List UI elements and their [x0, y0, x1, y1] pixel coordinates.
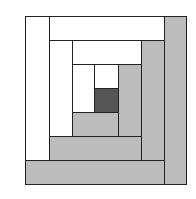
inner-bottom-gray-strip — [72, 112, 119, 137]
middle-left-light-strip — [49, 40, 73, 137]
middle-top-light-strip — [72, 40, 142, 65]
middle-bottom-gray-strip — [49, 136, 142, 161]
outer-right-gray-strip — [164, 16, 187, 185]
center-dark-square — [94, 88, 119, 113]
outer-bottom-gray-strip — [25, 160, 165, 185]
inner-top-light-strip — [94, 64, 119, 89]
outer-top-light-strip — [49, 16, 165, 41]
log-cabin-quilt-block — [0, 0, 196, 199]
middle-right-gray-strip — [141, 40, 165, 161]
inner-left-light-strip — [72, 64, 95, 113]
outer-left-light-strip — [25, 16, 50, 161]
inner-right-gray-strip — [118, 64, 142, 137]
